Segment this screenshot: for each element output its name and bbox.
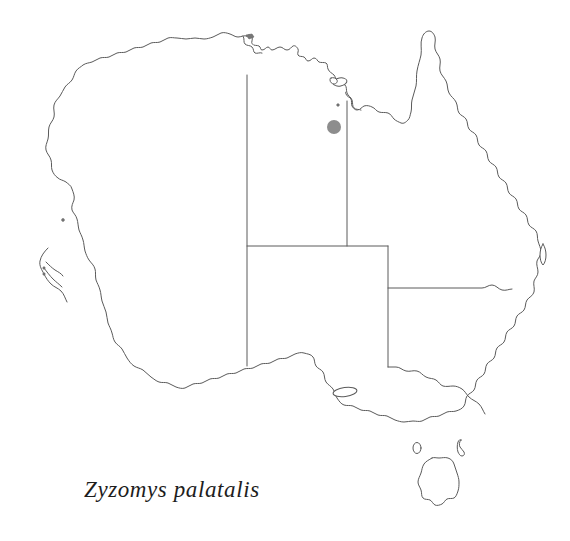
islet-dirk-hartog xyxy=(62,219,65,222)
distribution-map-figure: Zyzomys palatalis xyxy=(0,0,570,541)
australia-map xyxy=(0,0,570,541)
australia-mainland-coastline xyxy=(46,31,541,422)
islet-abrolhos-a xyxy=(43,267,45,269)
island-king-island xyxy=(413,443,421,454)
island-fraser-island xyxy=(540,244,546,265)
occurrence-point-1 xyxy=(327,120,341,134)
islet-abrolhos-b xyxy=(43,273,45,275)
island-flinders-island xyxy=(457,440,464,456)
islet-gulf-small xyxy=(337,104,340,107)
island-tasmania xyxy=(418,458,459,506)
island-wessel xyxy=(330,78,337,84)
species-caption: Zyzomys palatalis xyxy=(84,478,260,501)
